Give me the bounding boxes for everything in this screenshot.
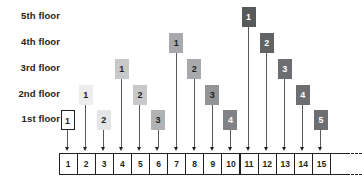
- probe-box-col-6-floor-1: 3: [151, 110, 165, 130]
- drop-line-col-10: [230, 130, 231, 147]
- arrow-head-col-12: [264, 147, 268, 151]
- probe-box-col-4-floor-3: 1: [115, 59, 129, 79]
- arrow-head-col-13: [282, 147, 286, 151]
- slot-9[interactable]: 9: [203, 153, 222, 175]
- drop-line-col-2: [85, 105, 86, 147]
- drop-line-col-1: [67, 130, 68, 147]
- drop-line-col-14: [302, 105, 303, 147]
- probe-box-col-14-floor-2: 4: [296, 85, 310, 105]
- arrow-head-col-6: [155, 147, 159, 151]
- floor-label-1: 1st floor: [0, 114, 60, 124]
- hash-table-slots: 123456789101112131415: [59, 153, 352, 175]
- probe-box-col-11-floor-5: 1: [242, 7, 256, 27]
- slot-4[interactable]: 4: [113, 153, 132, 175]
- slot-1[interactable]: 1: [59, 153, 78, 175]
- probe-box-col-12-floor-4: 2: [260, 33, 274, 53]
- probe-box-col-9-floor-2: 3: [205, 85, 219, 105]
- slot-11[interactable]: 11: [240, 153, 259, 175]
- arrow-head-col-14: [300, 147, 304, 151]
- probe-box-col-15-floor-1: 5: [314, 110, 328, 130]
- drop-line-col-3: [103, 130, 104, 147]
- drop-line-col-6: [158, 130, 159, 147]
- array-continuation-dash-1: [351, 153, 362, 154]
- slot-14[interactable]: 14: [294, 153, 313, 175]
- slot-7[interactable]: 7: [167, 153, 186, 175]
- probe-box-col-3-floor-1: 2: [97, 110, 111, 130]
- probe-box-col-2-floor-2: 1: [79, 85, 93, 105]
- drop-line-col-12: [266, 53, 267, 147]
- slot-5[interactable]: 5: [131, 153, 150, 175]
- arrow-head-col-3: [101, 147, 105, 151]
- array-continuation-dash-2: [351, 174, 362, 175]
- drop-line-col-7: [176, 53, 177, 147]
- drop-line-col-13: [284, 79, 285, 147]
- probe-box-col-13-floor-3: 3: [278, 59, 292, 79]
- slot-10[interactable]: 10: [221, 153, 240, 175]
- floor-label-3: 3rd floor: [0, 63, 60, 73]
- slot-15[interactable]: 15: [312, 153, 331, 175]
- drop-line-col-8: [194, 79, 195, 147]
- probe-box-col-8-floor-3: 2: [187, 59, 201, 79]
- arrow-head-col-4: [119, 147, 123, 151]
- probe-box-col-10-floor-1: 4: [223, 110, 237, 130]
- slot-3[interactable]: 3: [95, 153, 114, 175]
- slot-13[interactable]: 13: [276, 153, 295, 175]
- floor-label-5: 5th floor: [0, 11, 60, 21]
- slot-2[interactable]: 2: [77, 153, 96, 175]
- slot-6[interactable]: 6: [149, 153, 168, 175]
- drop-line-col-5: [139, 105, 140, 147]
- arrow-head-col-8: [192, 147, 196, 151]
- arrow-head-col-7: [174, 147, 178, 151]
- slot-8[interactable]: 8: [185, 153, 204, 175]
- drop-line-col-9: [212, 105, 213, 147]
- drop-line-col-15: [320, 130, 321, 147]
- floor-label-4: 4th floor: [0, 37, 60, 47]
- probe-box-col-1-floor-1: 1: [61, 110, 75, 130]
- slot-12[interactable]: 12: [258, 153, 277, 175]
- arrow-head-col-10: [228, 147, 232, 151]
- probe-box-col-5-floor-2: 2: [133, 85, 147, 105]
- arrow-head-col-11: [246, 147, 250, 151]
- arrow-head-col-2: [83, 147, 87, 151]
- arrow-head-col-5: [137, 147, 141, 151]
- drop-line-col-4: [121, 79, 122, 147]
- slot-empty-trailing[interactable]: [330, 153, 350, 175]
- arrow-head-col-15: [318, 147, 322, 151]
- floor-label-2: 2nd floor: [0, 89, 60, 99]
- arrow-head-col-1: [65, 147, 69, 151]
- probe-box-col-7-floor-4: 1: [169, 33, 183, 53]
- drop-line-col-11: [248, 27, 249, 147]
- arrow-head-col-9: [210, 147, 214, 151]
